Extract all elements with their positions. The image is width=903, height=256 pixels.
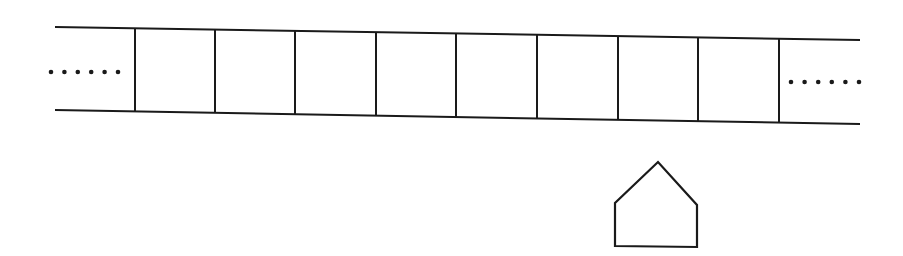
- tape: [49, 27, 862, 124]
- ellipsis-dot: [816, 80, 821, 85]
- left-ellipsis-icon: [49, 70, 121, 75]
- diagram-canvas: [0, 0, 903, 256]
- ellipsis-dot: [843, 80, 848, 85]
- ellipsis-dot: [857, 80, 862, 85]
- ellipsis-dot: [62, 70, 67, 75]
- ellipsis-dot: [89, 70, 94, 75]
- tape-bottom-edge: [55, 110, 860, 124]
- ellipsis-dot: [830, 80, 835, 85]
- head-pentagon-icon: [615, 162, 697, 247]
- tape-diagram: [0, 0, 903, 256]
- ellipsis-dot: [102, 70, 107, 75]
- ellipsis-dot: [789, 80, 794, 85]
- ellipsis-dot: [76, 70, 81, 75]
- ellipsis-dot: [116, 70, 121, 75]
- right-ellipsis-icon: [789, 80, 862, 85]
- tape-top-edge: [55, 27, 860, 40]
- tape-head-pointer: [615, 162, 697, 247]
- ellipsis-dot: [49, 70, 54, 75]
- ellipsis-dot: [802, 80, 807, 85]
